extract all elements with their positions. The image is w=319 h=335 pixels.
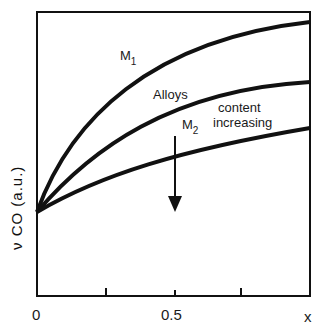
y-axis-label: ν CO (a.u.)	[8, 166, 25, 250]
label-increasing: increasing	[213, 115, 272, 130]
chart-canvas	[0, 0, 319, 335]
label-alloys: Alloys	[153, 87, 188, 102]
label-m1: M1	[120, 48, 136, 63]
plot-frame	[37, 12, 310, 296]
label-content: content	[218, 100, 261, 115]
x-axis-label: x	[304, 308, 312, 325]
x-tick-label-0: 0	[32, 306, 40, 323]
label-m2: M2	[182, 117, 198, 132]
x-tick-label-0-5: 0.5	[161, 306, 182, 323]
arrow-down-icon	[168, 196, 182, 212]
